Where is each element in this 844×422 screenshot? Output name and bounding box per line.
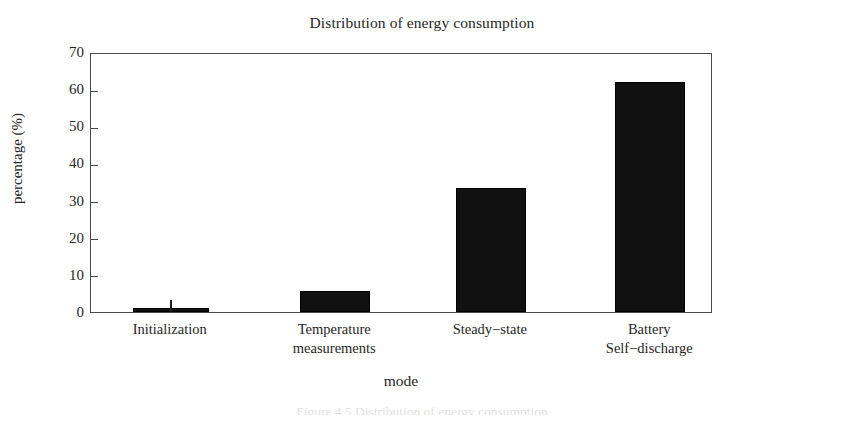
x-axis-tick-label-line: Temperature bbox=[298, 321, 371, 337]
plot-area bbox=[90, 53, 712, 313]
x-axis-tick-label: Temperaturemeasurements bbox=[249, 320, 419, 358]
y-axis-tick-labels: 010203040506070 bbox=[44, 53, 84, 313]
y-axis-tick-label: 40 bbox=[69, 156, 84, 171]
y-axis-tick-label: 30 bbox=[69, 194, 84, 209]
x-axis-tick-label: Initialization bbox=[85, 320, 255, 339]
y-axis-tick-label: 20 bbox=[69, 231, 84, 246]
bar bbox=[300, 291, 370, 312]
x-axis-tick-label-line: Self−discharge bbox=[564, 339, 734, 358]
bar-spike bbox=[170, 300, 172, 312]
x-axis-tick-label-line: Initialization bbox=[133, 321, 207, 337]
x-axis-tick-label: Steady−state bbox=[405, 320, 575, 339]
bar bbox=[615, 82, 685, 312]
y-axis-tick-label: 50 bbox=[69, 119, 84, 134]
x-axis-tick-label-line: measurements bbox=[249, 339, 419, 358]
figure-caption: Figure 4.5 Distribution of energy consum… bbox=[0, 404, 844, 415]
bars-layer bbox=[91, 54, 711, 312]
y-axis-tick-label: 0 bbox=[77, 305, 85, 320]
y-axis-tick-label: 60 bbox=[69, 82, 84, 97]
chart-title: Distribution of energy consumption bbox=[0, 14, 844, 32]
bar bbox=[456, 188, 526, 312]
x-axis-tick-label: BatterySelf−discharge bbox=[564, 320, 734, 358]
x-axis-label: mode bbox=[90, 372, 712, 390]
x-axis-tick-label-line: Battery bbox=[628, 321, 671, 337]
y-axis-tick-label: 10 bbox=[69, 268, 84, 283]
y-axis-label: percentage (%) bbox=[9, 79, 26, 239]
x-axis-tick-labels: InitializationTemperaturemeasurementsSte… bbox=[90, 320, 712, 372]
figure-container: Distribution of energy consumption perce… bbox=[0, 0, 844, 422]
x-axis-tick-label-line: Steady−state bbox=[453, 321, 527, 337]
y-axis-tick-label: 70 bbox=[69, 45, 84, 60]
